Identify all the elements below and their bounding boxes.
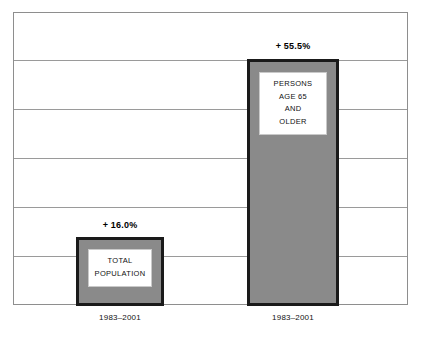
bar-label-box-age-65-older: PERSONS AGE 65 AND OLDER <box>259 72 327 135</box>
gridline-3 <box>14 158 407 159</box>
bar-label-line: POPULATION <box>89 268 151 281</box>
bar-label-line: TOTAL <box>89 255 151 268</box>
bar-label-box-total-population: TOTAL POPULATION <box>88 249 152 287</box>
bar-value-total-population: + 16.0% <box>56 220 184 230</box>
bar-label-line: AND <box>260 103 326 116</box>
bar-label-line: OLDER <box>260 116 326 129</box>
bar-total-population: TOTAL POPULATION <box>76 237 164 306</box>
plot-area <box>13 12 408 305</box>
bar-age-65-older: PERSONS AGE 65 AND OLDER <box>247 59 339 306</box>
gridline-5 <box>14 256 407 257</box>
bar-label-line: AGE 65 <box>260 91 326 104</box>
x-axis-tick-label-total-population: 1983–2001 <box>56 313 184 322</box>
gridline-2 <box>14 109 407 110</box>
bar-label-line: PERSONS <box>260 78 326 91</box>
x-axis-tick-label-age-65-older: 1983–2001 <box>229 313 357 322</box>
bar-value-age-65-older: + 55.5% <box>229 41 357 51</box>
bar-chart: TOTAL POPULATION + 16.0% 1983–2001 PERSO… <box>0 0 422 337</box>
gridline-4 <box>14 207 407 208</box>
gridline-1 <box>14 60 407 61</box>
